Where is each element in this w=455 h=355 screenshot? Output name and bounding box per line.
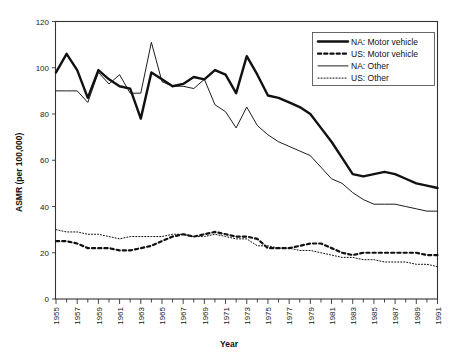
y-tick-label: 60 xyxy=(40,156,49,165)
legend-label: NA: Motor vehicle xyxy=(351,37,418,47)
x-tick-label: 1963 xyxy=(137,306,146,324)
x-tick-label: 1983 xyxy=(349,306,358,324)
x-tick-label: 1957 xyxy=(73,306,82,324)
x-tick-label: 1979 xyxy=(307,306,316,324)
x-tick-label: 1977 xyxy=(285,306,294,324)
x-axis-title: Year xyxy=(220,339,239,349)
y-axis-ticks: 020406080100120 xyxy=(36,18,56,305)
legend-label: US: Motor vehicle xyxy=(351,49,418,59)
y-tick-label: 120 xyxy=(36,18,50,27)
x-tick-label: 1985 xyxy=(370,306,379,324)
y-tick-label: 0 xyxy=(45,295,50,304)
x-tick-label: 1967 xyxy=(179,306,188,324)
x-tick-label: 1989 xyxy=(413,306,422,324)
x-tick-label: 1955 xyxy=(52,306,61,324)
x-tick-label: 1981 xyxy=(328,306,337,324)
x-tick-label: 1965 xyxy=(158,306,167,324)
y-tick-label: 20 xyxy=(40,249,49,258)
line-chart: ASMR (per 100,000) Year 020406080100120 … xyxy=(0,0,455,355)
chart-legend: NA: Motor vehicleUS: Motor vehicleNA: Ot… xyxy=(313,33,435,86)
x-tick-label: 1969 xyxy=(201,306,210,324)
x-tick-label: 1987 xyxy=(391,306,400,324)
y-tick-label: 80 xyxy=(40,110,49,119)
x-tick-label: 1973 xyxy=(243,306,252,324)
series-us-motor-vehicle xyxy=(56,232,438,255)
legend-label: NA: Other xyxy=(351,61,389,71)
y-tick-label: 40 xyxy=(40,203,49,212)
chart-figure: ASMR (per 100,000) Year 020406080100120 … xyxy=(0,0,455,355)
x-axis-ticks: 1955195719591961196319651967196919711973… xyxy=(52,299,443,325)
x-tick-label: 1975 xyxy=(264,306,273,324)
y-axis-title: ASMR (per 100,000) xyxy=(14,132,24,212)
x-tick-label: 1991 xyxy=(434,306,443,324)
x-tick-label: 1971 xyxy=(222,306,231,324)
x-tick-label: 1959 xyxy=(95,306,104,324)
y-tick-label: 100 xyxy=(36,64,50,73)
legend-label: US: Other xyxy=(351,73,389,83)
x-tick-label: 1961 xyxy=(116,306,125,324)
